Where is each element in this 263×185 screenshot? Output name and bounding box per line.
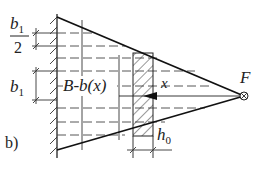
diagram-canvas: b1 2 b1 B-b(x) x F h0 b) bbox=[0, 0, 263, 185]
dimension-h0 bbox=[127, 147, 172, 153]
label-b1: b1 bbox=[10, 77, 24, 98]
force-point bbox=[240, 92, 248, 100]
panel-label: b) bbox=[5, 134, 18, 152]
label-h0: h0 bbox=[157, 125, 172, 146]
dimension-b1 bbox=[32, 67, 57, 104]
fixed-wall bbox=[50, 14, 57, 158]
hatched-strip bbox=[133, 53, 153, 158]
label-width-expr: B-b(x) bbox=[63, 76, 107, 95]
label-x: x bbox=[160, 75, 168, 91]
label-force: F bbox=[239, 68, 251, 87]
label-b1-half-num: b1 bbox=[10, 14, 24, 35]
label-b1-half-den: 2 bbox=[14, 39, 22, 56]
